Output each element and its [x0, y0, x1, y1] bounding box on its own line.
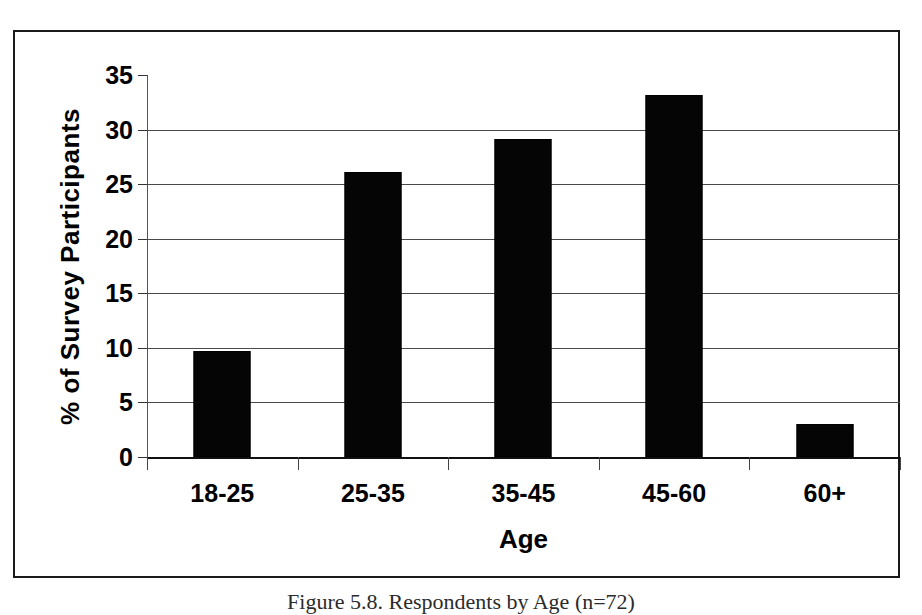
y-axis-tick — [138, 402, 147, 403]
y-axis-tick-label: 20 — [105, 226, 133, 251]
x-axis-tick-label: 25-35 — [341, 479, 405, 508]
y-axis-tick — [138, 457, 147, 458]
bar-slot — [147, 75, 298, 457]
y-axis-tick-label: 10 — [105, 335, 133, 360]
y-axis-tick-label: 0 — [119, 445, 133, 470]
x-axis: 18-2525-3535-4545-6060+ — [147, 457, 900, 458]
bar[interactable] — [796, 424, 853, 457]
x-axis-separator — [448, 457, 449, 470]
plot-area: 05101520253035 — [147, 75, 900, 457]
bar-slot — [599, 75, 750, 457]
bars — [147, 75, 900, 457]
x-axis-tick-label: 60+ — [803, 479, 845, 508]
x-axis-tick-label: 18-25 — [190, 479, 254, 508]
x-axis-separator — [749, 457, 750, 470]
bar[interactable] — [495, 139, 552, 457]
y-axis-tick-label: 15 — [105, 281, 133, 306]
bar[interactable] — [646, 95, 703, 457]
y-axis-tick — [138, 348, 147, 349]
y-axis-title: % of Survey Participants — [53, 75, 87, 457]
y-axis-tick — [138, 293, 147, 294]
x-axis-tick-label: 45-60 — [642, 479, 706, 508]
y-axis-tick-label: 35 — [105, 63, 133, 88]
bar-slot — [749, 75, 900, 457]
x-axis-separator — [599, 457, 600, 470]
x-axis-separator — [900, 457, 901, 470]
y-axis-tick — [138, 75, 147, 76]
bar[interactable] — [344, 172, 401, 457]
bar-slot — [448, 75, 599, 457]
y-axis-title-text: % of Survey Participants — [55, 108, 86, 425]
figure-frame: % of Survey Participants 05101520253035 … — [13, 30, 900, 578]
bar[interactable] — [194, 351, 251, 457]
x-axis-separator — [147, 457, 148, 470]
y-axis-tick — [138, 239, 147, 240]
x-axis-title: Age — [147, 524, 900, 555]
y-axis-tick — [138, 184, 147, 185]
y-axis-tick-label: 5 — [119, 390, 133, 415]
bar-slot — [298, 75, 449, 457]
x-axis-separator — [298, 457, 299, 470]
figure-caption: Figure 5.8. Respondents by Age (n=72) — [0, 589, 922, 615]
x-axis-tick-label: 35-45 — [492, 479, 556, 508]
y-axis-tick-label: 25 — [105, 172, 133, 197]
y-axis-tick — [138, 130, 147, 131]
y-axis-tick-label: 30 — [105, 117, 133, 142]
